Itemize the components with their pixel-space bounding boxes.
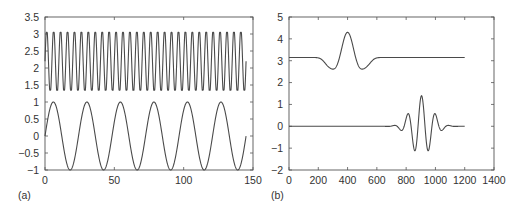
y-tick-label: 1.5 — [24, 79, 39, 91]
x-tick-label: 0 — [286, 174, 292, 186]
x-tick-label: 1000 — [424, 174, 448, 186]
panel-a-chart: 050100150−1−0.500.511.522.533.5 — [18, 11, 262, 186]
panel-b-chart: 0200400600800100012001400−2−1012345 — [271, 11, 506, 186]
y-tick-label: 1 — [33, 96, 39, 108]
axes-frame — [289, 17, 494, 170]
y-tick-label: 3 — [33, 28, 39, 40]
data-series-line — [289, 96, 465, 151]
figure: 050100150−1−0.500.511.522.533.5 02004006… — [0, 0, 524, 213]
x-tick-label: 400 — [339, 174, 357, 186]
x-tick-label: 50 — [108, 174, 120, 186]
y-tick-label: 4 — [277, 33, 283, 45]
x-tick-label: 1200 — [453, 174, 477, 186]
data-series-line — [289, 32, 465, 69]
data-series-line — [45, 32, 246, 90]
y-tick-label: 3.5 — [24, 11, 39, 23]
y-tick-label: 0 — [277, 120, 283, 132]
y-tick-label: 3 — [277, 55, 283, 67]
y-tick-label: −0.5 — [18, 147, 39, 159]
x-tick-label: 150 — [244, 174, 262, 186]
x-tick-label: 800 — [397, 174, 415, 186]
x-tick-label: 100 — [175, 174, 193, 186]
y-tick-label: −1 — [271, 142, 283, 154]
panel-a-label: (a) — [18, 189, 31, 201]
x-tick-label: 200 — [310, 174, 328, 186]
y-tick-label: 0 — [33, 130, 39, 142]
y-tick-label: −1 — [27, 164, 39, 176]
y-tick-label: 0.5 — [24, 113, 39, 125]
y-tick-label: −2 — [271, 164, 283, 176]
panel-b-label: (b) — [271, 189, 284, 201]
x-tick-label: 600 — [368, 174, 386, 186]
y-tick-label: 2 — [33, 62, 39, 74]
data-series-line — [45, 102, 246, 170]
y-tick-label: 1 — [277, 98, 283, 110]
y-tick-label: 2.5 — [24, 45, 39, 57]
y-tick-label: 5 — [277, 11, 283, 23]
x-tick-label: 0 — [42, 174, 48, 186]
x-tick-label: 1400 — [482, 174, 506, 186]
y-tick-label: 2 — [277, 76, 283, 88]
